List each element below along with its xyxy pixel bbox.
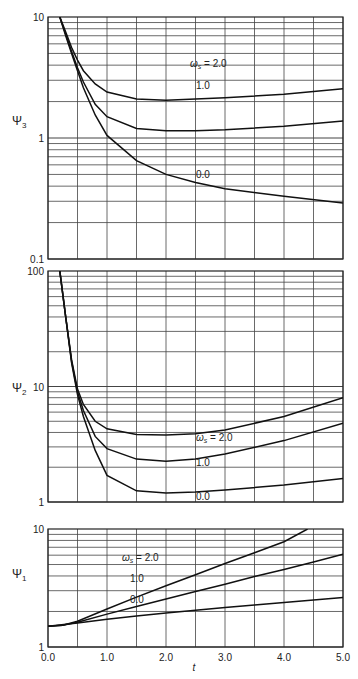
series-label: 0.0 <box>130 594 144 605</box>
series-label: 1.0 <box>130 573 144 584</box>
series-label: 0.0 <box>196 491 210 502</box>
y-tick-label: 1 <box>38 133 44 144</box>
x-tick-label: 0.0 <box>41 652 55 663</box>
series-label: ωs = 2.0 <box>190 58 227 70</box>
series-label: 0.0 <box>196 169 210 180</box>
y-tick-label: 100 <box>27 266 44 277</box>
curve-1.0 <box>60 17 343 131</box>
y-tick-label: 0.1 <box>30 254 44 265</box>
curve-2.0 <box>60 271 343 435</box>
x-tick-label: 5.0 <box>336 652 350 663</box>
x-tick-label: 1.0 <box>100 652 114 663</box>
y-axis-title: Ψ1 <box>12 567 27 583</box>
panel-top: 0.1110Ψ3 <box>12 12 343 265</box>
y-axis-title: Ψ3 <box>12 114 27 130</box>
x-tick-label: 2.0 <box>159 652 173 663</box>
chart-figure: 0.1110Ψ3110100Ψ2110Ψ1ωs = 2.01.00.0ωs = … <box>0 0 358 679</box>
series-label: 1.0 <box>196 457 210 468</box>
panel-middle: 110100Ψ2 <box>12 266 343 508</box>
series-label: ωs = 2.0 <box>196 432 233 444</box>
y-axis-title: Ψ2 <box>12 381 27 397</box>
y-tick-label: 1 <box>38 497 44 508</box>
y-tick-label: 10 <box>33 382 45 393</box>
x-tick-label: 4.0 <box>277 652 291 663</box>
x-axis-title: t <box>193 662 197 673</box>
x-tick-label: 3.0 <box>218 652 232 663</box>
panel-bottom: 110Ψ1 <box>12 524 343 653</box>
y-tick-label: 10 <box>33 524 45 535</box>
series-label: ωs = 2.0 <box>122 552 159 564</box>
series-label: 1.0 <box>196 80 210 91</box>
y-tick-label: 10 <box>33 12 45 23</box>
